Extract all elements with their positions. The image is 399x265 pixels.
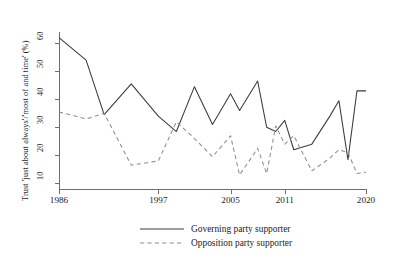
y-axis-tick-label: 20 [36,144,45,164]
chart-legend: Governing party supporterOpposition part… [140,222,292,250]
x-axis-tick [285,190,286,194]
y-axis-title: Trust 'just about always'/'most of and t… [21,41,30,202]
y-axis-tick-label: 40 [36,88,45,108]
line-opposition-party-supporter [59,112,366,175]
x-axis-tick-label: 1986 [39,195,79,205]
legend-item: Governing party supporter [140,222,292,236]
x-axis-tick [158,190,159,194]
legend-label: Governing party supporter [191,224,290,234]
y-axis-tick-label: 30 [36,116,45,136]
x-axis-tick-label: 2011 [265,195,305,205]
x-axis-tick-label: 1997 [138,195,178,205]
y-axis-tick-label: 50 [36,60,45,80]
x-axis-line [59,189,367,190]
y-axis-tick-label: 10 [36,172,45,192]
legend-line-swatch [140,224,184,234]
x-axis-tick [231,190,232,194]
plot-area [59,32,366,189]
x-axis-tick-label: 2005 [211,195,251,205]
series-lines [59,32,366,189]
legend-label: Opposition party supporter [191,238,292,248]
legend-line-swatch [140,238,184,248]
legend-item: Opposition party supporter [140,236,292,250]
x-axis-tick [366,190,367,194]
chart-figure: Trust 'just about always'/'most of and t… [0,0,399,265]
y-axis-title-container: Trust 'just about always'/'most of and t… [0,0,30,210]
x-axis-tick-label: 2020 [346,195,386,205]
y-axis-tick-label: 60 [36,32,45,52]
x-axis-tick [59,190,60,194]
line-governing-party-supporter [59,38,366,160]
